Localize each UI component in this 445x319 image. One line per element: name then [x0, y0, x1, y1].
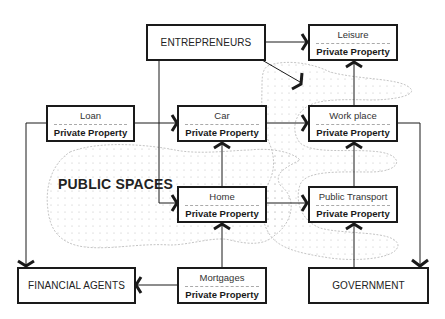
node-mortgages: Mortgages Private Property: [177, 267, 267, 304]
node-sublabel: Private Property: [179, 287, 265, 303]
node-public-transport: Public Transport Private Property: [308, 186, 398, 223]
node-car: Car Private Property: [177, 105, 267, 142]
node-sublabel: Private Property: [48, 125, 133, 141]
node-financial-agents: FINANCIAL AGENTS: [17, 267, 136, 304]
node-workplace: Work place Private Property: [308, 105, 398, 142]
node-leisure: Leisure Private Property: [308, 24, 398, 61]
node-label: Leisure: [316, 26, 390, 44]
node-label: Mortgages: [185, 269, 259, 287]
node-sublabel: Private Property: [310, 206, 396, 222]
node-label: ENTREPRENEURS: [161, 37, 252, 48]
node-label: FINANCIAL AGENTS: [28, 280, 125, 291]
node-label: Car: [185, 107, 259, 125]
node-entrepreneurs: ENTREPRENEURS: [146, 24, 266, 61]
node-label: Work place: [316, 107, 390, 125]
public-spaces-label: PUBLIC SPACES: [58, 176, 173, 192]
node-sublabel: Private Property: [310, 44, 396, 60]
node-government: GOVERNMENT: [308, 267, 429, 304]
node-home: Home Private Property: [177, 186, 267, 223]
node-label: GOVERNMENT: [332, 280, 405, 291]
node-label: Home: [185, 188, 259, 206]
node-label: Loan: [54, 107, 127, 125]
node-loan: Loan Private Property: [46, 105, 135, 142]
public-spaces-region-right: [262, 62, 412, 259]
node-sublabel: Private Property: [179, 125, 265, 141]
node-label: Public Transport: [316, 188, 390, 206]
node-sublabel: Private Property: [179, 206, 265, 222]
node-sublabel: Private Property: [310, 125, 396, 141]
